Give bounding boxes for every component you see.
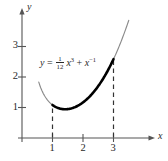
equation-plus: +: [76, 58, 84, 68]
y-axis-label: y: [27, 2, 31, 12]
equation-equals: =: [46, 58, 54, 68]
graph-figure: y x 1 2 3 1 2 3 y = 1 12 x3 + x−1: [0, 0, 168, 161]
equation-term1-exponent: 3: [71, 55, 74, 62]
y-tick-label-2: 2: [8, 71, 18, 82]
equation-coefficient-fraction: 1 12: [56, 55, 65, 70]
equation-term2: x−1: [85, 58, 96, 68]
x-tick-label-3: 3: [107, 143, 119, 154]
x-tick-label-1: 1: [46, 143, 58, 154]
y-axis-arrowhead: [19, 8, 24, 15]
equation-term1: x3: [66, 58, 74, 68]
fraction-denominator: 12: [56, 62, 65, 70]
equation-label: y = 1 12 x3 + x−1: [40, 55, 96, 70]
x-tick-label-2: 2: [77, 143, 89, 154]
y-tick-label-3: 3: [8, 40, 18, 51]
x-axis-arrowhead: [149, 135, 156, 140]
graph-canvas: [0, 0, 168, 161]
equation-lhs: y: [40, 58, 44, 68]
x-axis-label: x: [158, 131, 162, 141]
equation-term2-exponent: −1: [89, 55, 96, 62]
y-tick-label-1: 1: [8, 102, 18, 113]
fraction-numerator: 1: [57, 55, 62, 62]
